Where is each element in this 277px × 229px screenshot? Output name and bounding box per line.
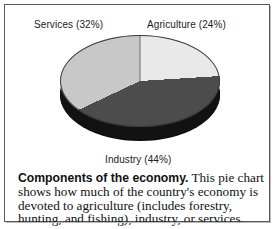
pie-label-industry: Industry (44%) bbox=[105, 154, 171, 165]
pie-graphic bbox=[60, 35, 220, 150]
caption-lead: Components of the economy. bbox=[18, 171, 188, 185]
pie-top-face bbox=[60, 35, 220, 127]
figure-caption: Components of the economy. This pie char… bbox=[18, 171, 266, 226]
pie-label-agriculture: Agriculture (24%) bbox=[147, 19, 226, 30]
pie-chart-figure: Services (32%) Agriculture (24%) Industr… bbox=[0, 0, 277, 229]
figure-frame: Services (32%) Agriculture (24%) Industr… bbox=[4, 4, 270, 222]
pie-label-services: Services (32%) bbox=[34, 19, 103, 30]
chart-plot-area: Services (32%) Agriculture (24%) Industr… bbox=[10, 10, 274, 170]
